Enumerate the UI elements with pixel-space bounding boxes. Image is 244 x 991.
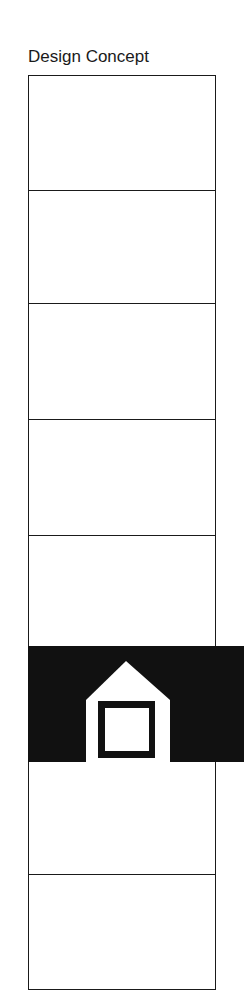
house-icon <box>0 0 244 991</box>
